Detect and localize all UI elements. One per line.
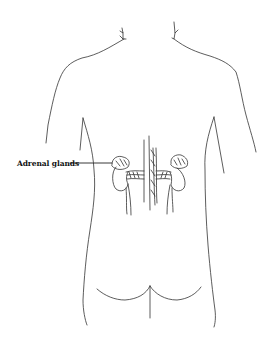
- right-adrenal-gland: [171, 155, 188, 169]
- buttocks-outline: [97, 286, 201, 318]
- left-adrenal-gland: [112, 156, 129, 169]
- left-flank-outline: [80, 118, 95, 325]
- left-shoulder-outline: [46, 28, 126, 143]
- left-kidney: [113, 167, 128, 191]
- adrenal-glands-label: Adrenal glands: [17, 159, 79, 168]
- right-renal-vessels: [156, 171, 173, 214]
- right-kidney: [170, 168, 185, 191]
- torso-diagram: [0, 0, 273, 347]
- spine-great-vessels: [144, 136, 157, 210]
- right-flank-outline: [205, 117, 224, 327]
- right-shoulder-outline: [172, 22, 256, 152]
- left-renal-vessels: [126, 171, 144, 215]
